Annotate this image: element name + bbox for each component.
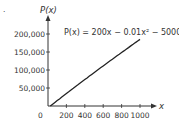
y-axis-label: P(x) (40, 5, 57, 15)
x-tick-label: 800 (114, 111, 129, 120)
series-line-px (50, 39, 140, 106)
x-tick-label: 600 (96, 111, 111, 120)
x-axis-label: x (158, 101, 165, 111)
y-axis-arrow-icon (46, 15, 51, 21)
figure-marker: . (3, 5, 5, 14)
x-tick-label: 1000 (130, 111, 149, 120)
y-tick-label: 100,000 (14, 66, 45, 75)
y-tick-label: 200,000 (14, 30, 45, 39)
x-tick-label: 200 (59, 111, 74, 120)
y-tick-label: 150,000 (14, 48, 45, 57)
x-tick-label: 400 (78, 111, 93, 120)
chart: . 50,000100,000150,000200,00020040060080… (0, 0, 179, 128)
x-axis-arrow-icon (151, 104, 157, 109)
y-tick-label: 50,000 (19, 84, 45, 93)
equation-annotation: P(x) = 200x − 0.01x² − 5000 (64, 28, 179, 37)
origin-label: 0 (38, 111, 43, 120)
series (50, 39, 140, 106)
